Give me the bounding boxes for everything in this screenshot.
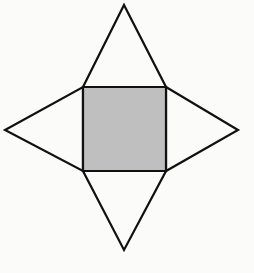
star-net-diagram — [0, 0, 254, 273]
center-square — [83, 87, 166, 171]
figure-container: Four-pointed star / square with four tri… — [0, 0, 254, 273]
